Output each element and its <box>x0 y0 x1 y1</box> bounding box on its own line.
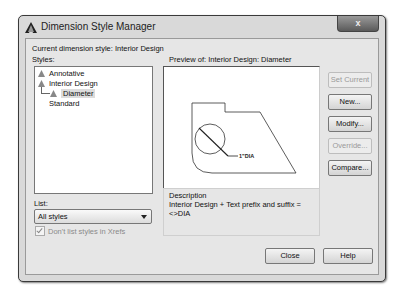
list-filter-dropdown[interactable]: All styles <box>34 209 152 224</box>
preview-pane: 1"DIA <box>163 66 320 189</box>
tree-connector <box>41 87 50 94</box>
style-item-annotative[interactable]: Annotative <box>38 69 84 78</box>
preview-label: Preview of: Interior Design: Diameter <box>169 55 292 64</box>
annotative-triangle-icon <box>50 90 57 97</box>
list-selected-value: All styles <box>38 212 68 221</box>
window-title: Dimension Style Manager <box>41 21 156 32</box>
title-bar[interactable]: Dimension Style Manager x <box>19 16 385 38</box>
diameter-preview-drawing: 1"DIA <box>164 67 319 188</box>
list-label: List: <box>34 199 48 208</box>
description-title: Description <box>169 191 207 200</box>
dimension-style-manager-dialog: Dimension Style Manager x Current dimens… <box>18 15 386 282</box>
override-button[interactable]: Override... <box>328 138 372 154</box>
autocad-app-icon <box>25 22 37 33</box>
current-style-label: Current dimension style: Interior Design <box>32 44 164 53</box>
xref-filter-checkbox[interactable]: Don't list styles in Xrefs <box>35 226 125 236</box>
new-button[interactable]: New... <box>328 94 372 110</box>
close-button[interactable]: Close <box>265 248 315 264</box>
help-button[interactable]: Help <box>323 248 373 264</box>
checkbox-checked-icon[interactable] <box>35 226 45 236</box>
xref-checkbox-label: Don't list styles in Xrefs <box>48 227 125 236</box>
annotative-triangle-icon <box>38 70 45 77</box>
style-item-diameter[interactable]: Diameter <box>50 89 95 98</box>
styles-list[interactable]: Annotative Interior Design Diameter Stan… <box>34 66 153 194</box>
set-current-button[interactable]: Set Current <box>328 72 372 88</box>
close-window-button[interactable]: x <box>337 16 379 32</box>
description-text: Interior Design + Text prefix and suffix… <box>169 200 319 218</box>
modify-button[interactable]: Modify... <box>328 116 372 132</box>
dimension-text: 1"DIA <box>239 153 254 159</box>
chevron-down-icon <box>141 215 147 219</box>
annotative-triangle-icon <box>38 80 45 87</box>
description-box: Description Interior Design + Text prefi… <box>163 188 320 236</box>
dialog-body: Current dimension style: Interior Design… <box>25 38 379 275</box>
compare-button[interactable]: Compare... <box>328 160 372 176</box>
styles-label: Styles: <box>32 55 55 64</box>
style-item-standard[interactable]: Standard <box>49 99 79 108</box>
